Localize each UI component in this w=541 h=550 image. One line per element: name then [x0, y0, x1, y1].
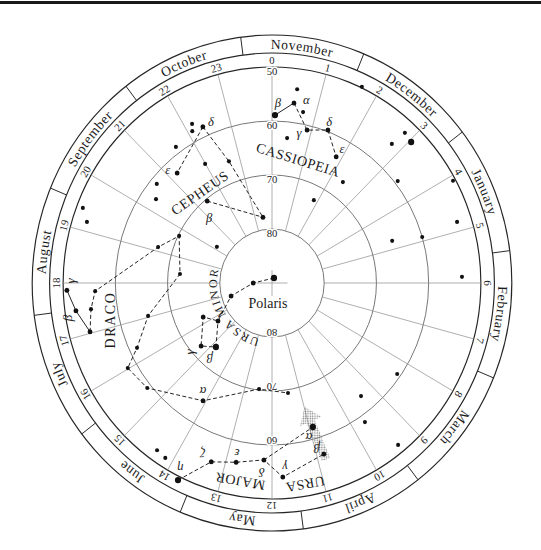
field-star [312, 198, 316, 202]
month-divider [301, 511, 303, 529]
month-label-text: May [227, 510, 256, 529]
star-label: α [199, 384, 206, 398]
star-dra-6 [178, 272, 182, 276]
star-label: δ [326, 115, 333, 129]
cepheus-figure-line [203, 127, 263, 217]
star-umi-beta [213, 344, 219, 350]
hour-label: 3 [418, 119, 430, 132]
star-label: η [177, 461, 183, 475]
star-cas-beta [272, 112, 278, 118]
star-dra-5 [177, 234, 181, 238]
cepheus-figure-line [177, 127, 203, 173]
declination-label: 70 [267, 173, 278, 185]
declination-label: 60 [267, 119, 278, 131]
hour-circle-line [218, 335, 259, 491]
star-dra-8 [135, 346, 139, 350]
star-cep-delta [200, 124, 205, 129]
star-dra-2 [89, 307, 93, 311]
star-label: ε [165, 163, 171, 177]
top-rule [0, 1, 541, 4]
hour-label: 6 [482, 280, 494, 286]
month-divider [477, 371, 493, 378]
star-umi-polaris [271, 275, 277, 281]
hour-label: 13 [210, 491, 223, 506]
field-star [396, 443, 400, 447]
month-divider [50, 188, 66, 195]
hour-circle-line [70, 227, 221, 269]
star-cep-2 [261, 215, 266, 220]
field-star [360, 85, 364, 89]
field-star [396, 179, 400, 183]
star-cas-epsilon [334, 154, 339, 159]
star-dra-1 [88, 329, 93, 334]
month-divider [82, 423, 96, 434]
field-star [359, 394, 363, 398]
month-label: September [65, 107, 116, 169]
hour-circle-line [322, 227, 473, 269]
star-cep-4 [190, 129, 194, 133]
month-label-text: December [383, 70, 441, 121]
hour-label: 12 [267, 500, 278, 512]
star-uma-delta [262, 457, 267, 462]
star-uma-alpha [310, 424, 316, 430]
star-label: β [274, 96, 282, 110]
constellation-name-ursa-major-word-1: URSA [284, 473, 326, 495]
star-cas-3 [285, 136, 289, 140]
month-label-text: November [271, 37, 335, 61]
star-label: ζ [200, 446, 206, 460]
hour-circle-line [322, 297, 473, 339]
field-star [390, 239, 394, 243]
month-label: July [47, 359, 70, 389]
hour-label: 2 [375, 83, 386, 96]
star-label: β [206, 351, 214, 365]
star-label: α [303, 93, 310, 107]
star-cep-beta [205, 199, 210, 204]
star-uma-eta [175, 477, 181, 483]
field-star [420, 235, 424, 239]
declination-label: 80 [267, 227, 278, 239]
field-star [341, 180, 345, 184]
field-star [155, 448, 159, 452]
month-divider [34, 313, 51, 315]
star-label: γ [65, 277, 79, 283]
constellation-name-ursa-major-word-2: MAJOR [214, 469, 266, 493]
month-label: May [227, 510, 256, 529]
star-label: δ [208, 115, 215, 129]
hour-label: 18 [50, 278, 62, 289]
star-cas-1 [295, 87, 299, 91]
star-cep-8 [154, 197, 158, 201]
month-divider [180, 495, 187, 512]
hour-circle-line [218, 74, 259, 230]
hour-label: 17 [56, 333, 70, 347]
month-label: December [383, 70, 441, 121]
field-star [215, 245, 219, 249]
hour-label: 9 [418, 434, 430, 447]
star-umi-1 [251, 281, 256, 286]
star-dra-11 [257, 387, 261, 391]
hour-label: 5 [474, 221, 487, 229]
polaris-label: Polaris [249, 296, 288, 311]
field-star [460, 275, 464, 279]
month-divider [241, 37, 243, 55]
field-star [403, 131, 407, 135]
star-label: γ [296, 126, 302, 140]
declination-label: 60 [267, 435, 278, 447]
month-label: November [271, 37, 335, 61]
star-dra-3 [93, 289, 97, 293]
field-star [363, 420, 367, 424]
month-label-text: September [65, 107, 116, 169]
month-divider [357, 54, 364, 71]
star-chart: 01234567891011121314151617181920212223No… [0, 0, 541, 550]
star-dra-gamma [64, 288, 69, 293]
star-label: γ [282, 460, 288, 474]
coordinate-grid: 01234567891011121314151617181920212223No… [32, 35, 512, 531]
star-cep-epsilon [175, 170, 180, 175]
field-star [163, 456, 167, 460]
declination-label: 50 [267, 65, 278, 77]
field-star [81, 206, 85, 210]
hour-label: 1 [324, 61, 332, 74]
draco-figure-line [67, 290, 90, 332]
star-umi-gamma [199, 343, 204, 348]
star-uma-zeta [209, 459, 214, 464]
declination-label: 80 [267, 327, 278, 339]
